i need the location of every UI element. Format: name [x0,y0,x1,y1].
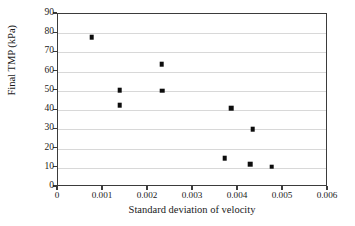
y-axis-tick-label: 60 [45,66,55,76]
data-point [269,165,274,170]
data-point [117,103,122,108]
y-axis-title: Final TMP (kPa) [7,0,18,120]
data-points-layer [58,14,326,185]
y-axis-tick-label: 40 [45,104,55,114]
data-point [251,127,256,132]
y-axis-tick-label: 90 [45,8,55,18]
scatter-plot-figure: 0102030405060708090 00.0010.0020.0030.00… [0,0,355,226]
data-point [229,106,234,111]
y-axis-tick-label: 20 [45,143,55,153]
plot-area [57,13,327,186]
data-point [117,88,122,93]
data-point [159,62,164,67]
x-axis-tick-label: 0.001 [92,191,113,200]
x-axis-tick-label: 0.004 [227,191,248,200]
y-axis-tick-label: 50 [45,85,55,95]
y-axis-tick-label: 80 [45,27,55,37]
y-axis-tick-label: 10 [45,162,55,172]
x-axis-tick-label: 0.003 [182,191,203,200]
y-axis-tick-label: 70 [45,47,55,57]
x-axis-tick-label: 0 [55,191,60,200]
data-point [160,89,165,94]
data-point [248,162,253,167]
x-axis-tick-label: 0.006 [317,191,338,200]
data-point [89,35,94,40]
data-point [222,156,227,161]
x-axis-tick-label: 0.005 [272,191,293,200]
x-axis-tick-label: 0.002 [137,191,158,200]
y-axis-tick-label: 30 [45,124,55,134]
x-axis-title: Standard deviation of velocity [57,205,327,216]
y-axis-tick-label: 0 [49,181,54,191]
